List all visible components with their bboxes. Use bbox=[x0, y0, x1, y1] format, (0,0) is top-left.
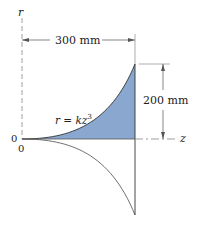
arrow-left-icon bbox=[22, 38, 29, 42]
origin-label-left: 0 bbox=[11, 133, 17, 144]
height-dimension-label: 200 mm bbox=[143, 94, 189, 107]
z-axis-label: z bbox=[179, 132, 186, 145]
arrow-up-icon bbox=[161, 64, 165, 71]
width-dimension-label: 300 mm bbox=[55, 34, 101, 47]
arrow-down-icon bbox=[161, 132, 165, 139]
r-axis-label: r bbox=[18, 6, 24, 19]
diagram-canvas: r z 0 0 300 mm 200 mm r = kz3 bbox=[0, 0, 201, 227]
shaded-area bbox=[22, 64, 135, 139]
curve-equation-exponent: 3 bbox=[87, 113, 91, 121]
curve-equation: r = kz3 bbox=[55, 113, 92, 126]
arrow-right-icon bbox=[128, 38, 135, 42]
curve-equation-base: r = kz bbox=[55, 114, 88, 126]
origin-label-below: 0 bbox=[18, 143, 24, 154]
lower-curve bbox=[22, 139, 135, 215]
